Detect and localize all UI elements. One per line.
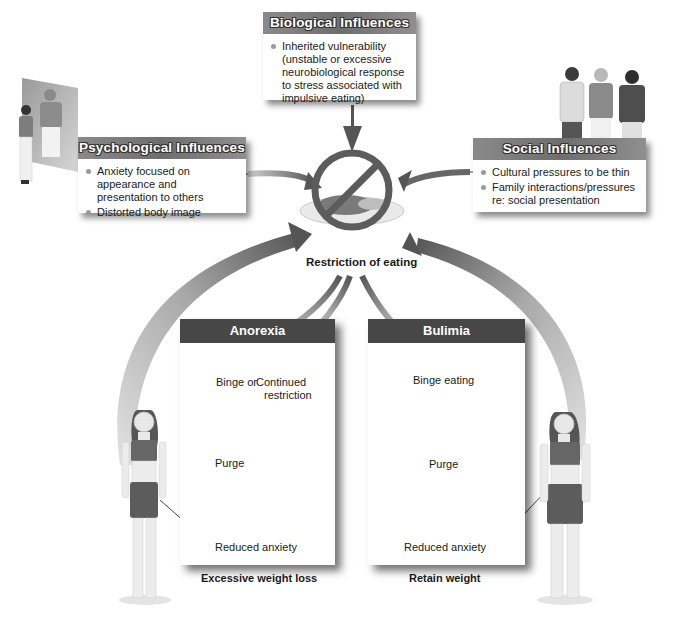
arrow-psychological-to-center (248, 172, 322, 190)
psychological-influences-box: Psychological Influences Anxiety focused… (78, 137, 246, 213)
bullet-icon (481, 170, 486, 175)
bullet-icon (86, 169, 91, 174)
biological-influences-title: Biological Influences (263, 12, 416, 34)
social-bullet-2: Family interactions/pressures re: social… (481, 181, 638, 207)
retain-weight-label: Retain weight (409, 572, 481, 585)
excessive-weight-loss-label: Excessive weight loss (201, 572, 317, 585)
social-influences-box: Social Influences Cultural pressures to … (473, 138, 646, 212)
anorexia-continued-label: Continued (256, 376, 306, 389)
bulimia-purge-label: Purge (429, 458, 458, 471)
psychological-influences-title: Psychological Influences (78, 137, 246, 159)
biological-influences-box: Biological Influences Inherited vulnerab… (263, 12, 416, 100)
bulimia-panel (368, 319, 525, 565)
anorexia-binge-label: Binge or (216, 376, 257, 389)
bullet-icon (481, 185, 486, 190)
restriction-of-eating-label: Restriction of eating (306, 256, 417, 269)
arrow-social-to-center (398, 170, 470, 192)
no-food-plate-icon (300, 153, 404, 227)
psychological-bullet-2: Distorted body image (86, 206, 238, 219)
anorexia-purge-label: Purge (215, 457, 244, 470)
social-bullet-1: Cultural pressures to be thin (481, 166, 638, 179)
bulimia-reduced-anxiety-label: Reduced anxiety (404, 541, 486, 554)
anorexia-title: Anorexia (180, 319, 335, 343)
bulimia-title: Bulimia (368, 319, 525, 343)
social-group-illustration (560, 67, 645, 138)
anorexia-reduced-anxiety-label: Reduced anxiety (215, 541, 297, 554)
bullet-icon (86, 210, 91, 215)
anorexia-panel (180, 319, 335, 565)
arrow-biological-to-center (343, 105, 362, 152)
bulimia-binge-eating-label: Binge eating (413, 374, 474, 387)
bullet-icon (271, 44, 276, 49)
social-influences-title: Social Influences (473, 138, 646, 160)
psychological-bullet-1: Anxiety focused on appearance and presen… (86, 165, 238, 204)
mirror-figure-illustration (19, 78, 78, 184)
anorexia-restriction-label: restriction (264, 389, 312, 402)
biological-bullet: Inherited vulnerability (unstable or exc… (271, 40, 408, 105)
